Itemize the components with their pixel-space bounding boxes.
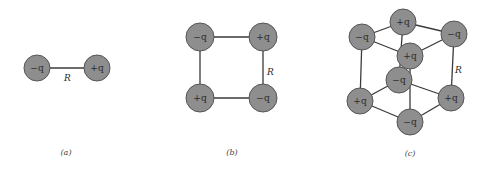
distance-label-r: R bbox=[454, 65, 462, 75]
charge-label: −q bbox=[30, 63, 44, 73]
charge-label: −q bbox=[193, 32, 207, 42]
charge-label: +q bbox=[193, 93, 207, 103]
caption-a: (a) bbox=[60, 148, 71, 157]
charge-positive: +q bbox=[397, 43, 423, 69]
charge-negative: −q bbox=[349, 24, 375, 50]
charge-configurations-diagram: R −q +q (a) R −q +q +q −q bbox=[0, 0, 487, 169]
charge-positive: +q bbox=[249, 23, 277, 51]
charge-label: +q bbox=[90, 63, 104, 73]
charge-label: +q bbox=[403, 51, 417, 61]
charge-label: +q bbox=[256, 32, 270, 42]
charge-negative: −q bbox=[249, 84, 277, 112]
charge-positive: +q bbox=[438, 85, 464, 111]
caption-b: (b) bbox=[226, 148, 237, 157]
charge-negative: −q bbox=[441, 21, 467, 47]
charge-label: +q bbox=[353, 96, 367, 106]
caption-c: (c) bbox=[405, 149, 416, 158]
charge-label: −q bbox=[355, 32, 369, 42]
distance-label-r: R bbox=[266, 67, 274, 77]
charge-positive: +q bbox=[390, 9, 416, 35]
charge-negative: −q bbox=[24, 55, 50, 81]
charge-positive: +q bbox=[347, 88, 373, 114]
charge-negative: −q bbox=[397, 109, 423, 135]
panel-a: R −q +q (a) bbox=[24, 55, 110, 157]
charge-label: −q bbox=[392, 75, 406, 85]
charge-positive: +q bbox=[84, 55, 110, 81]
charge-label: −q bbox=[447, 29, 461, 39]
charge-label: −q bbox=[403, 117, 417, 127]
distance-label-r: R bbox=[63, 73, 71, 83]
panel-b: R −q +q +q −q (b) bbox=[186, 23, 277, 157]
charge-label: +q bbox=[444, 93, 458, 103]
charge-negative: −q bbox=[186, 23, 214, 51]
panel-c: R −q +q −q −q +q +q −q bbox=[347, 9, 467, 158]
charge-label: +q bbox=[396, 17, 410, 27]
charge-positive: +q bbox=[186, 84, 214, 112]
charge-label: −q bbox=[256, 93, 270, 103]
charge-negative: −q bbox=[386, 67, 412, 93]
